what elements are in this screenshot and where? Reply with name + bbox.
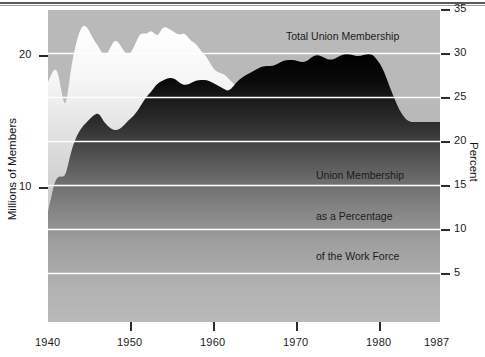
right-axis-title: Percent [468,142,480,182]
x-tick-label-1987: 1987 [424,336,449,348]
x-tick-label-1960: 1960 [200,336,225,348]
top-rule [0,2,485,4]
x-tick-label-1980: 1980 [366,336,391,348]
right-tick-label-5: 5 [454,266,460,278]
right-tick-label-35: 35 [454,2,467,14]
annotation-line-2: as a Percentage [316,210,404,224]
annotation-total-union-membership: Total Union Membership [286,30,399,44]
right-tick-mark-25 [441,97,450,99]
right-tick-mark-20 [441,141,450,143]
right-tick-label-25: 25 [454,90,467,102]
x-tick-mark-1970 [296,322,298,331]
x-tick-label-1940: 1940 [35,336,60,348]
right-tick-label-30: 30 [454,46,467,58]
right-tick-label-10: 10 [454,222,467,234]
left-tick-mark-20 [39,55,48,57]
x-tick-mark-1950 [130,322,132,331]
right-tick-mark-35 [441,9,450,11]
left-tick-mark-10 [39,187,48,189]
right-tick-mark-5 [441,273,450,275]
left-tick-label-10: 10 [19,180,32,192]
right-tick-mark-30 [441,53,450,55]
right-tick-label-20: 20 [454,134,467,146]
top-rule-secondary [0,5,485,6]
annotation-line-3: of the Work Force [316,250,404,264]
annotation-union-membership-percentage: Union Membership as a Percentage of the … [316,142,404,291]
left-axis-title: Millions of Members [6,118,18,220]
x-tick-label-1950: 1950 [117,336,142,348]
x-tick-mark-1980 [379,322,381,331]
x-tick-mark-1960 [213,322,215,331]
right-tick-label-15: 15 [454,178,467,190]
chart-figure: Total Union Membership Union Membership … [0,0,485,357]
right-tick-mark-10 [441,229,450,231]
right-tick-mark-15 [441,185,450,187]
left-tick-label-20: 20 [19,48,32,60]
plot-area: Total Union Membership Union Membership … [48,10,440,322]
x-tick-label-1970: 1970 [283,336,308,348]
annotation-line-1: Union Membership [316,169,404,183]
